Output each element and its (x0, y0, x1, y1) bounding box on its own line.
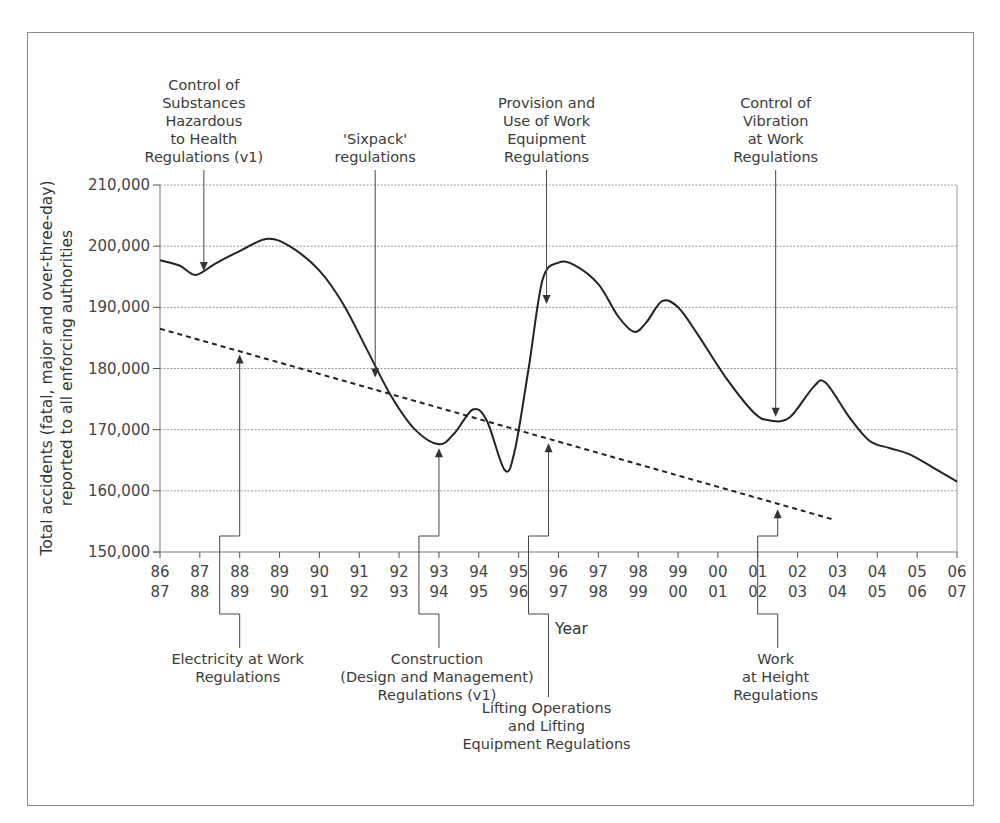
x-tick-label-start: 06 (947, 563, 966, 581)
annotation-label-line: Provision and (498, 95, 595, 111)
y-tick-label: 200,000 (88, 237, 150, 255)
annotation: Control ofSubstancesHazardousto HealthRe… (144, 77, 263, 271)
y-tick-label: 160,000 (88, 482, 150, 500)
x-tick-label-end: 94 (429, 583, 448, 601)
x-tick-label-end: 88 (190, 583, 209, 601)
x-tick-label-end: 98 (589, 583, 608, 601)
x-tick-label-end: 87 (150, 583, 169, 601)
annotation-label-line: Control of (168, 77, 240, 93)
annotation-label-line: Equipment Regulations (462, 736, 630, 752)
annotation-bracket-line (529, 449, 549, 697)
x-tick-label-start: 02 (788, 563, 807, 581)
annotation-label-line: Regulations (504, 149, 589, 165)
annotations: Control ofSubstancesHazardousto HealthRe… (144, 77, 818, 752)
x-tick-label-start: 98 (629, 563, 648, 581)
x-tick-label-start: 95 (509, 563, 528, 581)
x-tick-label-start: 93 (429, 563, 448, 581)
arrowhead-icon (236, 355, 244, 364)
annotation-label-line: Regulations (v1) (144, 149, 263, 165)
x-tick-label-start: 88 (230, 563, 249, 581)
annotation-label-line: regulations (335, 149, 416, 165)
x-tick-label-start: 91 (350, 563, 369, 581)
arrowhead-icon (435, 448, 443, 457)
annotation: Workat HeightRegulations (733, 509, 818, 703)
x-tick-label-end: 92 (350, 583, 369, 601)
x-tick-label-end: 03 (788, 583, 807, 601)
annotation-label-line: Substances (162, 95, 245, 111)
annotation-label-line: to Health (170, 131, 237, 147)
y-tick-label: 180,000 (88, 360, 150, 378)
accidents-series-line (160, 239, 957, 482)
x-tick-label-end: 93 (390, 583, 409, 601)
x-tick-label-end: 91 (310, 583, 329, 601)
x-tick-label-start: 96 (549, 563, 568, 581)
x-tick-label-end: 07 (947, 583, 966, 601)
arrowhead-icon (772, 408, 780, 417)
annotation-bracket-line (419, 454, 439, 648)
x-tick-label-start: 99 (669, 563, 688, 581)
x-tick-label-start: 89 (270, 563, 289, 581)
x-axis-label: Year (554, 620, 588, 638)
annotation-label-line: Electricity at Work (171, 651, 304, 667)
y-axis-label: Total accidents (fatal, major and over-t… (38, 180, 76, 556)
annotation-label-line: Use of Work (503, 113, 591, 129)
annotation-label-line: Regulations (733, 687, 818, 703)
x-tick-label-end: 99 (629, 583, 648, 601)
x-tick-label-start: 92 (390, 563, 409, 581)
x-tick-label-start: 97 (589, 563, 608, 581)
x-tick-label-start: 03 (828, 563, 847, 581)
x-tick-label-start: 94 (469, 563, 488, 581)
annotation: Electricity at WorkRegulations (171, 355, 304, 685)
y-tick-label: 190,000 (88, 298, 150, 316)
y-tick-label: 210,000 (88, 176, 150, 194)
x-tick-label-end: 96 (509, 583, 528, 601)
annotation-label-line: 'Sixpack' (343, 131, 407, 147)
annotation-label-line: at Height (742, 669, 809, 685)
x-tick-label-end: 01 (708, 583, 727, 601)
annotation-label-line: Regulations (v1) (378, 687, 497, 703)
y-tick-label: 170,000 (88, 421, 150, 439)
arrowhead-icon (774, 509, 782, 518)
x-tick-label-end: 04 (828, 583, 847, 601)
x-tick-label-start: 90 (310, 563, 329, 581)
annotation-bracket-line (220, 361, 240, 648)
annotation-label-line: Work (757, 651, 794, 667)
x-tick-label-start: 00 (708, 563, 727, 581)
x-tick-label-start: 05 (908, 563, 927, 581)
x-tick-label-end: 89 (230, 583, 249, 601)
annotation-bracket-line (758, 515, 778, 648)
y-axis-ticks: 150,000160,000170,000180,000190,000200,0… (88, 176, 160, 561)
annotation-label-line: Regulations (195, 669, 280, 685)
annotation-label-line: Vibration (743, 113, 808, 129)
x-axis-ticks: 8687878888898990909191929293939494959596… (150, 552, 966, 601)
annotation-label-line: at Work (748, 131, 805, 147)
x-tick-label-end: 05 (868, 583, 887, 601)
x-tick-label-end: 95 (469, 583, 488, 601)
annotation: 'Sixpack'regulations (335, 131, 416, 378)
x-tick-label-end: 06 (908, 583, 927, 601)
x-tick-label-start: 86 (150, 563, 169, 581)
annotation-label-line: Regulations (733, 149, 818, 165)
annotation-label-line: Hazardous (165, 113, 242, 129)
arrowhead-icon (545, 443, 553, 452)
y-tick-label: 150,000 (88, 543, 150, 561)
annotation-label-line: and Lifting (508, 718, 585, 734)
accidents-line-chart: 150,000160,000170,000180,000190,000200,0… (0, 0, 1000, 823)
annotation-label-line: Control of (740, 95, 812, 111)
annotation-label-line: Lifting Operations (482, 700, 611, 716)
annotation-label-line: Equipment (507, 131, 586, 147)
x-tick-label-end: 00 (669, 583, 688, 601)
x-tick-label-end: 90 (270, 583, 289, 601)
annotation-label-line: Construction (391, 651, 483, 667)
x-tick-label-start: 87 (190, 563, 209, 581)
y-axis-label-line-2: reported to all enforcing authorities (58, 230, 76, 506)
y-axis-label-line-1: Total accidents (fatal, major and over-t… (38, 180, 56, 556)
x-tick-label-end: 97 (549, 583, 568, 601)
series-group (160, 239, 957, 519)
arrowhead-icon (543, 295, 551, 304)
x-tick-label-start: 04 (868, 563, 887, 581)
annotation-label-line: (Design and Management) (340, 669, 533, 685)
annotation: Provision andUse of WorkEquipmentRegulat… (498, 95, 595, 304)
